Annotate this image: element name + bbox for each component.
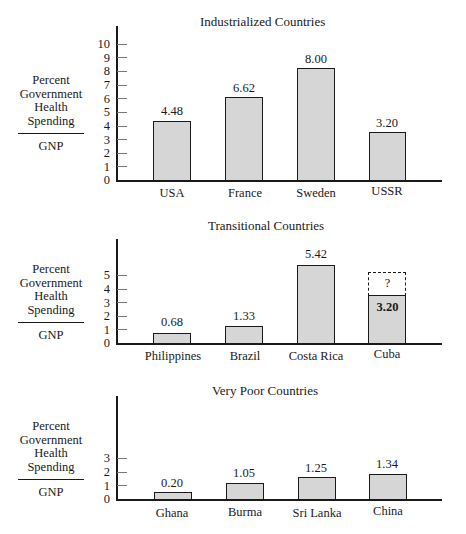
x-axis: [116, 499, 442, 501]
y-axis-label-denominator: GNP: [18, 486, 84, 500]
category-label: Burma: [205, 506, 285, 518]
bar-value-label: 1.33: [214, 310, 274, 322]
y-tick-label: 3: [96, 297, 110, 309]
y-axis-label-line: Percent: [18, 420, 84, 434]
bar-sri-lanka: [298, 477, 336, 499]
y-tick-label: 1: [96, 161, 110, 173]
y-axis-label-denominator: GNP: [18, 329, 84, 343]
y-tick: [117, 458, 127, 459]
bar-value-label: 8.00: [286, 53, 346, 65]
y-tick-label: 8: [96, 65, 110, 77]
category-label: Brazil: [205, 350, 285, 362]
bar-unknown-label: ?: [369, 277, 406, 289]
category-label: Sweden: [276, 187, 356, 199]
bar-value-label: 5.42: [286, 248, 346, 260]
y-tick: [117, 71, 127, 72]
category-label: China: [348, 505, 428, 517]
y-tick-label: 5: [96, 269, 110, 281]
y-tick: [117, 485, 127, 486]
y-tick-label: 1: [96, 324, 110, 336]
chart-title: Transitional Countries: [208, 218, 318, 234]
y-axis: [116, 396, 118, 500]
y-tick-label: 5: [96, 106, 110, 118]
y-axis-label-line: Percent: [18, 263, 84, 277]
y-tick: [117, 98, 127, 99]
bar-costa-rica: [297, 265, 335, 343]
y-tick-label: 3: [96, 452, 110, 464]
fraction-rule: [18, 322, 84, 323]
y-axis-label-line: Health: [18, 101, 84, 115]
y-axis-label-line: Health: [18, 290, 84, 304]
y-axis-label-line: Spending: [18, 304, 84, 318]
y-tick-label: 2: [96, 147, 110, 159]
y-axis-label-denominator: GNP: [18, 140, 84, 154]
category-label: Philippines: [133, 350, 213, 362]
y-axis-label-line: Government: [18, 277, 84, 291]
bar-value-label-inner: 3.20: [369, 301, 406, 313]
y-tick-label: 6: [96, 93, 110, 105]
y-tick: [117, 153, 127, 154]
bar-france: [225, 97, 263, 180]
y-axis-label: Percent Government Health Spending GNP: [18, 420, 84, 500]
bar-burma: [226, 483, 264, 499]
y-axis-label: Percent Government Health Spending GNP: [18, 74, 84, 154]
y-axis: [116, 239, 118, 344]
y-tick: [117, 316, 127, 317]
category-label: Sri Lanka: [277, 507, 357, 519]
y-tick: [117, 302, 127, 303]
y-tick: [117, 57, 127, 58]
y-axis-label-line: Health: [18, 447, 84, 461]
y-axis-label: Percent Government Health Spending GNP: [18, 263, 84, 343]
bar-china: [369, 474, 407, 499]
y-tick-label: 10: [92, 38, 110, 50]
y-axis-label-line: Percent: [18, 74, 84, 88]
bar-value-label: 6.62: [214, 82, 274, 94]
y-tick: [117, 139, 127, 140]
x-axis: [116, 180, 442, 182]
y-tick-label: 2: [96, 310, 110, 322]
y-tick-label: 0: [96, 493, 110, 505]
bar-value-label: 0.68: [142, 316, 202, 328]
bar-cuba-unknown: [368, 272, 406, 296]
y-tick: [117, 166, 127, 167]
y-axis-label-line: Government: [18, 434, 84, 448]
y-axis: [116, 26, 118, 181]
y-tick: [117, 472, 127, 473]
category-label: USSR: [347, 185, 427, 197]
y-tick-label: 0: [96, 337, 110, 349]
bar-value-label: 1.34: [357, 458, 417, 470]
y-tick-label: 4: [96, 120, 110, 132]
y-axis-label-line: Spending: [18, 115, 84, 129]
category-label: Ghana: [132, 507, 212, 519]
bar-sweden: [297, 68, 335, 180]
category-label: France: [205, 187, 285, 199]
fraction-rule: [18, 133, 84, 134]
y-tick-label: 9: [96, 52, 110, 64]
chart-title: Very Poor Countries: [210, 383, 320, 399]
y-tick: [117, 289, 127, 290]
y-tick-label: 1: [96, 480, 110, 492]
bar-value-label: 4.48: [142, 105, 202, 117]
category-label: USA: [132, 187, 212, 199]
y-axis-label-line: Spending: [18, 461, 84, 475]
y-tick: [117, 275, 127, 276]
y-axis-label-line: Government: [18, 88, 84, 102]
bar-ghana: [154, 492, 192, 499]
x-axis: [116, 343, 442, 345]
y-tick: [117, 85, 127, 86]
bar-usa: [153, 121, 191, 180]
bar-value-label: 1.25: [286, 462, 346, 474]
y-tick-label: 2: [96, 466, 110, 478]
category-label: Costa Rica: [276, 350, 356, 362]
y-tick-label: 4: [96, 283, 110, 295]
bar-brazil: [225, 326, 263, 343]
y-tick-label: 7: [96, 79, 110, 91]
y-tick: [117, 44, 127, 45]
chart-industrialized: Industrialized Countries Percent Governm…: [0, 0, 466, 200]
y-tick-label: 3: [96, 134, 110, 146]
y-tick: [117, 329, 127, 330]
y-tick-label: 0: [96, 174, 110, 186]
chart-title: Industrialized Countries: [200, 14, 320, 30]
bar-value-label: 0.20: [142, 477, 202, 489]
y-tick: [117, 112, 127, 113]
